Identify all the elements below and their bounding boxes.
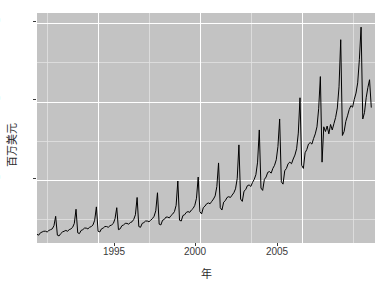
plot-panel [37, 13, 375, 243]
y-tick-mark-20 [33, 99, 36, 100]
chart-container: 百万美元 30 20 10 1995 2000 2005 年 [0, 0, 387, 289]
x-tick-label-1995: 1995 [94, 247, 134, 257]
series-line [37, 27, 371, 236]
y-axis-title: 百万美元 [4, 0, 20, 289]
y-tick-mark-30 [33, 21, 36, 22]
x-tick-label-2005: 2005 [257, 247, 297, 257]
x-tick-label-2000: 2000 [175, 247, 215, 257]
y-tick-mark-10 [33, 178, 36, 179]
x-axis-title: 年 [37, 268, 375, 281]
plot-svg [37, 13, 375, 243]
